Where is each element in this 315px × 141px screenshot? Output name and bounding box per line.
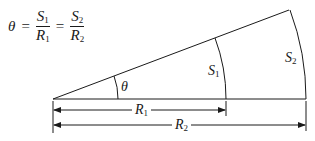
sector-diagram [0, 0, 315, 141]
theta-label: θ [121, 80, 128, 94]
r1-label: R1 [132, 103, 151, 118]
theta-arc [114, 76, 118, 99]
upper-ray [53, 10, 289, 99]
s2-label: S2 [285, 51, 297, 66]
s1-label: S1 [208, 64, 220, 79]
r2-label: R2 [172, 118, 191, 133]
